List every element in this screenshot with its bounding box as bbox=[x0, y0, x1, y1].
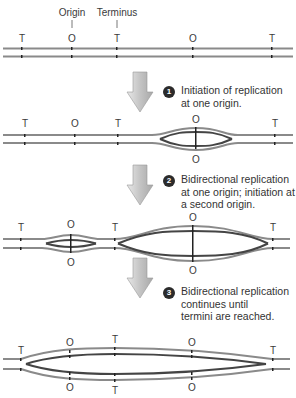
terminus-marker: T bbox=[112, 334, 118, 345]
terminus-marker: T bbox=[18, 222, 24, 233]
step-3-caption: Bidirectional replication continues unti… bbox=[181, 285, 289, 323]
caption-line: Bidirectional replication bbox=[181, 173, 295, 186]
origin-marker: O bbox=[67, 257, 75, 268]
caption-line: a second origin. bbox=[181, 198, 295, 211]
origin-marker: O bbox=[66, 337, 74, 348]
terminus-marker: T bbox=[115, 118, 121, 129]
step-2-caption: Bidirectional replication at one origin;… bbox=[181, 173, 295, 211]
origin-marker: O bbox=[66, 382, 74, 393]
terminus-marker: T bbox=[270, 222, 276, 233]
origin-marker: O bbox=[192, 114, 200, 125]
row-after-step-3: T O T O T O T O bbox=[3, 334, 290, 396]
terminus-marker: T bbox=[18, 345, 24, 356]
origin-marker: O bbox=[71, 118, 79, 129]
terminus-marker: T bbox=[270, 345, 276, 356]
row-after-step-1: T O T O T O bbox=[3, 114, 293, 165]
origin-marker: O bbox=[192, 154, 200, 165]
origin-marker: O bbox=[188, 382, 196, 393]
step-2-badge: 2 bbox=[163, 175, 175, 187]
step-1-badge: 1 bbox=[163, 86, 175, 98]
terminus-marker: T bbox=[112, 385, 118, 396]
origin-legend-label: Origin bbox=[59, 7, 86, 18]
down-arrow-icon bbox=[127, 258, 153, 298]
origin-marker: O bbox=[189, 212, 197, 223]
caption-line: Bidirectional replication bbox=[181, 285, 289, 298]
legend: Origin Terminus bbox=[59, 7, 138, 28]
terminus-marker: T bbox=[114, 33, 120, 44]
caption-line: continues until bbox=[181, 298, 289, 311]
origin-marker: O bbox=[188, 337, 196, 348]
caption-line: at one origin; initiation at bbox=[181, 186, 295, 199]
terminus-marker: T bbox=[112, 222, 118, 233]
down-arrow-icon bbox=[127, 72, 153, 112]
terminus-marker: T bbox=[272, 118, 278, 129]
origin-marker: O bbox=[189, 265, 197, 276]
terminus-legend-label: Terminus bbox=[97, 7, 138, 18]
origin-marker: O bbox=[68, 33, 76, 44]
down-arrow-icon bbox=[127, 165, 153, 205]
terminus-marker: T bbox=[22, 118, 28, 129]
origin-marker: O bbox=[67, 219, 75, 230]
caption-line: termini are reached. bbox=[181, 310, 289, 323]
terminus-marker: T bbox=[19, 33, 25, 44]
origin-marker: O bbox=[189, 33, 197, 44]
caption-line: at one origin. bbox=[181, 97, 283, 110]
row-initial: T O T O T bbox=[3, 33, 293, 58]
terminus-marker: T bbox=[269, 33, 275, 44]
step-1-caption: Initiation of replication at one origin. bbox=[181, 84, 283, 109]
caption-line: Initiation of replication bbox=[181, 84, 283, 97]
step-3-badge: 3 bbox=[163, 287, 175, 299]
